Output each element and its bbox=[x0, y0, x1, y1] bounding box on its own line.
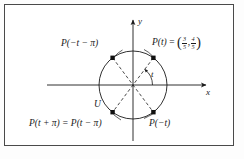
unit-circle-figure: y x t U P(t) = (35,45) P(−t − π) P(t + π… bbox=[0, 0, 244, 159]
coordinate-x-fraction: 35 bbox=[182, 36, 187, 50]
circle-label-u: U bbox=[94, 100, 101, 110]
point-marker-p-of-t-plus-pi bbox=[110, 110, 114, 114]
angle-label-t: t bbox=[151, 70, 154, 79]
label-p-of-t: P(t) = (35,45) bbox=[152, 36, 201, 50]
left-paren: ( bbox=[177, 35, 182, 50]
y-axis-label: y bbox=[138, 17, 142, 26]
label-p-of-t-equals: = bbox=[169, 37, 174, 47]
right-paren: ) bbox=[196, 35, 201, 50]
diagram-canvas bbox=[0, 0, 244, 159]
x-axis-label: x bbox=[206, 88, 210, 97]
coordinate-y-fraction: 45 bbox=[191, 36, 196, 50]
point-marker-p-of-minus-t bbox=[151, 110, 155, 114]
label-p-of-minus-t: P(−t) bbox=[149, 119, 170, 129]
label-p-of-minus-t-minus-pi: P(−t − π) bbox=[61, 39, 98, 49]
label-p-of-t-prefix: P(t) bbox=[152, 37, 167, 47]
label-p-of-t-plus-pi: P(t + π) = P(t − π) bbox=[29, 119, 102, 129]
point-marker-p-of-t bbox=[151, 56, 155, 60]
point-marker-p-of-minus-t-minus-pi bbox=[110, 56, 114, 60]
